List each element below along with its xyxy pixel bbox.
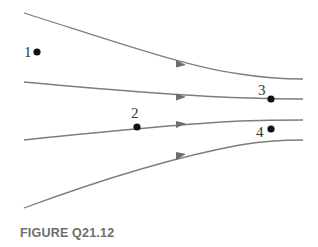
point-2: [133, 123, 140, 130]
streamline-diagram: 1 2 3 4: [0, 0, 318, 247]
point-4-label: 4: [256, 124, 264, 140]
streamline-1: [24, 13, 303, 79]
point-3: [267, 95, 274, 102]
streamline-4: [24, 140, 303, 208]
figure-caption: FIGURE Q21.12: [20, 226, 114, 240]
point-3-label: 3: [258, 82, 266, 98]
point-1-label: 1: [24, 44, 32, 60]
arrow-icon: [176, 152, 186, 160]
point-1: [33, 48, 40, 55]
point-4: [267, 125, 274, 132]
point-2-label: 2: [131, 105, 139, 121]
